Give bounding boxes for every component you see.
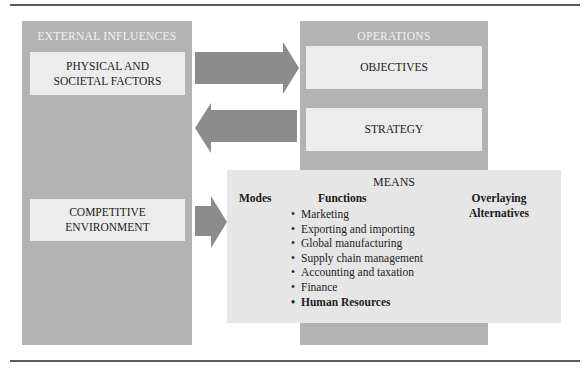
function-item: Global manufacturing <box>291 236 423 251</box>
arrow-left-to-external-icon <box>195 103 297 153</box>
physical-societal-factors-box: PHYSICAL AND SOCIETAL FACTORS <box>30 52 185 95</box>
physical-line-2: SOCIETAL FACTORS <box>54 74 162 89</box>
objectives-box: OBJECTIVES <box>306 46 482 89</box>
function-item-human-resources: Human Resources <box>291 295 423 310</box>
external-influences-panel: EXTERNAL INFLUENCES PHYSICAL AND SOCIETA… <box>22 21 192 345</box>
strategy-box: STRATEGY <box>306 108 482 151</box>
bottom-rule <box>10 360 580 362</box>
means-title: MEANS <box>227 175 561 190</box>
arrow-right-to-operations-icon <box>195 42 299 94</box>
function-item: Finance <box>291 280 423 295</box>
overlaying-line-1: Overlaying <box>469 191 529 206</box>
functions-heading: Functions <box>318 191 367 206</box>
top-rule <box>10 4 580 6</box>
overlaying-alternatives-heading: Overlaying Alternatives <box>469 191 529 221</box>
function-item: Accounting and taxation <box>291 265 423 280</box>
external-influences-title: EXTERNAL INFLUENCES <box>22 30 192 42</box>
function-item: Marketing <box>291 207 423 222</box>
overlaying-line-2: Alternatives <box>469 206 529 221</box>
physical-line-1: PHYSICAL AND <box>66 59 149 74</box>
competitive-line-1: COMPETITIVE <box>69 205 146 220</box>
means-box: MEANS Modes Functions Overlaying Alterna… <box>227 170 561 323</box>
operations-title: OPERATIONS <box>300 30 488 42</box>
arrow-right-to-means-icon <box>195 196 227 248</box>
function-item: Supply chain management <box>291 251 423 266</box>
competitive-line-2: ENVIRONMENT <box>65 220 149 235</box>
function-item: Exporting and importing <box>291 222 423 237</box>
competitive-environment-box: COMPETITIVE ENVIRONMENT <box>30 199 185 241</box>
functions-list: Marketing Exporting and importing Global… <box>291 207 423 309</box>
modes-heading: Modes <box>239 191 272 206</box>
